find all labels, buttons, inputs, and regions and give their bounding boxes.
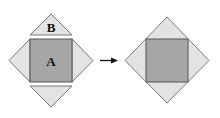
triangle-right [72, 39, 93, 82]
arrow-right-icon [100, 58, 118, 64]
triangle-bottom [30, 86, 72, 107]
triangle-left [9, 39, 30, 82]
right-figure [125, 17, 209, 103]
diagram-canvas: B A [0, 0, 220, 118]
label-b: B [47, 20, 56, 35]
label-a: A [46, 54, 56, 69]
left-figure: B A [9, 14, 93, 107]
inner-square [146, 39, 188, 82]
